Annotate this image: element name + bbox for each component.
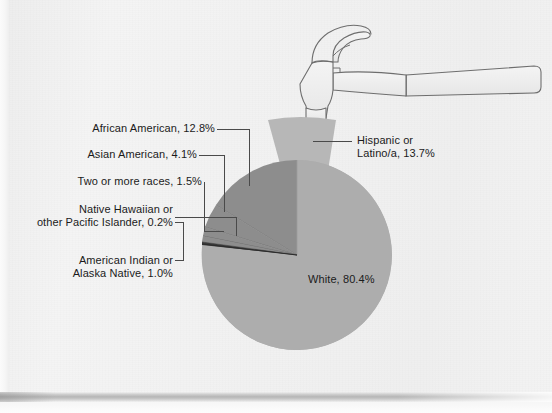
slice-label-two-or-more-races-text: Two or more races, 1.5% [77, 175, 202, 187]
slice-label-hispanic: Hispanic or Latino/a, 13.7% [357, 134, 435, 160]
figure-page: African American, 12.8% Asian American, … [0, 0, 552, 413]
slice-label-two-or-more-races: Two or more races, 1.5% [40, 175, 202, 188]
slice-label-hispanic-line2: Latino/a, 13.7% [357, 147, 435, 159]
slice-label-white: White, 80.4% [308, 273, 375, 286]
slice-label-american-indian-line1: American Indian or [79, 254, 173, 266]
pie-body [202, 160, 392, 350]
slice-label-african-american-text: African American, 12.8% [92, 122, 215, 134]
slice-label-white-text: White, 80.4% [308, 273, 375, 285]
slice-label-african-american: African American, 12.8% [60, 122, 215, 135]
page-gutter-band-shading [0, 392, 552, 402]
slice-label-american-indian-line2: Alaska Native, 1.0% [73, 267, 173, 279]
slice-label-american-indian: American Indian or Alaska Native, 1.0% [40, 254, 173, 280]
hammer-icon [300, 25, 541, 122]
slice-label-hispanic-line1: Hispanic or [357, 134, 413, 146]
slice-label-asian-american-text: Asian American, 4.1% [87, 148, 197, 160]
slice-label-native-hawaiian-line2: other Pacific Islander, 0.2% [37, 216, 173, 228]
page-bottom-margin [0, 402, 552, 413]
slice-label-asian-american: Asian American, 4.1% [60, 148, 197, 161]
slice-label-native-hawaiian-line1: Native Hawaiian or [79, 203, 173, 215]
leader-line-american-indian-seg [175, 222, 183, 260]
slice-label-native-hawaiian: Native Hawaiian or other Pacific Islande… [10, 203, 173, 229]
